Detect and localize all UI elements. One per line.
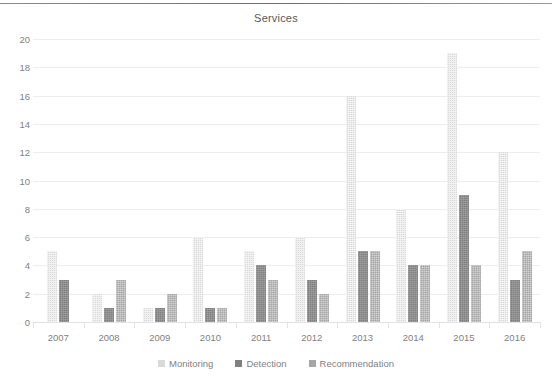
bar-group [337, 39, 388, 322]
legend-label: Monitoring [169, 358, 213, 369]
bar-recommendation-2014[interactable] [420, 265, 430, 322]
bar-monitoring-2009[interactable] [143, 308, 153, 322]
bar-recommendation-2015[interactable] [471, 265, 481, 322]
x-axis-tick-label: 2015 [439, 332, 490, 343]
bar-detection-2015[interactable] [459, 195, 469, 322]
y-axis-tick-label: 2 [25, 288, 30, 299]
chart-legend: MonitoringDetectionRecommendation [0, 358, 552, 369]
bar-detection-2011[interactable] [256, 265, 266, 322]
y-axis-tick-label: 8 [25, 203, 30, 214]
bar-group [439, 39, 490, 322]
bar-recommendation-2009[interactable] [167, 294, 177, 322]
x-axis-tick-label: 2007 [33, 332, 84, 343]
bar-group [236, 39, 287, 322]
legend-item-monitoring[interactable]: Monitoring [158, 358, 213, 369]
x-axis-tick-label: 2014 [388, 332, 439, 343]
bar-monitoring-2013[interactable] [346, 96, 356, 322]
category-tick [33, 322, 34, 328]
bar-recommendation-2008[interactable] [116, 280, 126, 322]
legend-swatch-recommendation-icon [309, 360, 316, 367]
bar-monitoring-2008[interactable] [92, 294, 102, 322]
bar-detection-2007[interactable] [59, 280, 69, 322]
bar-recommendation-2012[interactable] [319, 294, 329, 322]
y-axis-tick-label: 6 [25, 232, 30, 243]
y-axis-tick-label: 18 [19, 62, 30, 73]
chart-title: Services [0, 12, 552, 24]
y-axis-tick-label: 14 [19, 118, 30, 129]
bar-recommendation-2016[interactable] [522, 251, 532, 322]
category-tick [337, 322, 338, 328]
x-axis-tick-label: 2012 [287, 332, 338, 343]
y-axis-tick-label: 10 [19, 175, 30, 186]
bar-monitoring-2015[interactable] [447, 53, 457, 322]
legend-swatch-detection-icon [235, 360, 242, 367]
bar-group [33, 39, 84, 322]
y-axis-tick-label: 0 [25, 317, 30, 328]
bar-monitoring-2010[interactable] [193, 237, 203, 322]
bar-detection-2008[interactable] [104, 308, 114, 322]
bar-monitoring-2012[interactable] [295, 237, 305, 322]
bar-group [489, 39, 540, 322]
y-axis-tick-label: 16 [19, 90, 30, 101]
bar-detection-2014[interactable] [408, 265, 418, 322]
category-tick [236, 322, 237, 328]
y-axis: 20181614121086420 [0, 39, 30, 322]
bar-groups [33, 39, 540, 322]
bar-detection-2010[interactable] [205, 308, 215, 322]
bar-recommendation-2013[interactable] [370, 251, 380, 322]
category-tick [540, 322, 541, 328]
x-axis-tick-label: 2008 [84, 332, 135, 343]
bar-detection-2009[interactable] [155, 308, 165, 322]
category-tick [84, 322, 85, 328]
y-axis-tick-label: 12 [19, 147, 30, 158]
bar-detection-2013[interactable] [358, 251, 368, 322]
y-axis-tick-label: 4 [25, 260, 30, 271]
legend-item-recommendation[interactable]: Recommendation [309, 358, 394, 369]
bar-group [388, 39, 439, 322]
category-tick [287, 322, 288, 328]
bar-monitoring-2014[interactable] [396, 209, 406, 322]
legend-label: Recommendation [320, 358, 394, 369]
x-axis: 2007200820092010201120122013201420152016 [33, 332, 540, 348]
x-axis-tick-label: 2016 [489, 332, 540, 343]
bar-group [134, 39, 185, 322]
legend-item-detection[interactable]: Detection [235, 358, 286, 369]
x-axis-tick-label: 2010 [185, 332, 236, 343]
category-tick [489, 322, 490, 328]
bar-detection-2016[interactable] [510, 280, 520, 322]
category-tick [439, 322, 440, 328]
bar-group [287, 39, 338, 322]
x-axis-tick-label: 2009 [134, 332, 185, 343]
bar-group [185, 39, 236, 322]
services-bar-chart: Services 20181614121086420 2007200820092… [0, 0, 552, 381]
category-separators [33, 322, 540, 328]
bar-monitoring-2007[interactable] [47, 251, 57, 322]
bar-recommendation-2010[interactable] [217, 308, 227, 322]
category-tick [388, 322, 389, 328]
bar-group [84, 39, 135, 322]
legend-label: Detection [246, 358, 286, 369]
legend-swatch-monitoring-icon [158, 360, 165, 367]
bar-monitoring-2011[interactable] [244, 251, 254, 322]
x-axis-tick-label: 2011 [236, 332, 287, 343]
y-axis-tick-label: 20 [19, 34, 30, 45]
category-tick [134, 322, 135, 328]
bar-detection-2012[interactable] [307, 280, 317, 322]
x-axis-tick-label: 2013 [337, 332, 388, 343]
bar-recommendation-2011[interactable] [268, 280, 278, 322]
bar-monitoring-2016[interactable] [498, 152, 508, 322]
category-tick [185, 322, 186, 328]
